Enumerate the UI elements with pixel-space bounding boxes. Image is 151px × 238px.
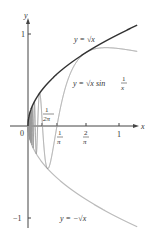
x-axis-arrow-icon xyxy=(133,124,139,128)
origin-label: 0 xyxy=(20,129,24,138)
x-tick-1: 1 xyxy=(117,130,121,139)
svg-text:1: 1 xyxy=(45,106,49,114)
svg-text:1: 1 xyxy=(122,75,126,83)
label-sqrt-sin: y = √x sin xyxy=(72,79,105,88)
svg-text:2π: 2π xyxy=(43,115,51,123)
label-neg-sqrt: y = −√x xyxy=(59,214,87,223)
y-tick-neg1: −1 xyxy=(13,214,22,223)
label-sqrt: y = √x xyxy=(73,35,95,44)
svg-text:x: x xyxy=(120,84,125,92)
svg-text:π: π xyxy=(83,138,87,146)
y-tick-1: 1 xyxy=(21,30,25,39)
y-axis-label: y xyxy=(23,11,28,20)
chart: y x 1 −1 0 1 1 2π 1 π 2 π y = √x y = √x … xyxy=(0,0,151,238)
svg-text:2: 2 xyxy=(84,129,88,137)
x-axis-label: x xyxy=(140,122,145,131)
svg-text:π: π xyxy=(57,138,61,146)
svg-text:1: 1 xyxy=(58,129,62,137)
